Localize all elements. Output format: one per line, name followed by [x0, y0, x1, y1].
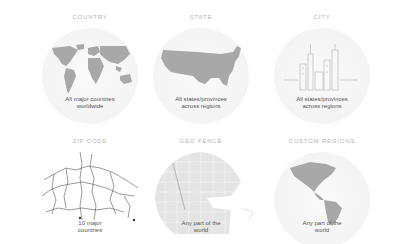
tile-caption: Any part of the world: [141, 220, 261, 234]
geo-targeting-grid: COUNTRY All majo: [0, 0, 402, 244]
tile-city[interactable]: CITY All states/provinces across regi: [262, 14, 382, 124]
tile-caption: 10 major countries: [30, 220, 150, 234]
tile-caption: Any part of the world: [262, 220, 382, 234]
tile-caption: All states/provinces across regions: [141, 96, 261, 110]
tile-caption: All major countries worldwide: [30, 96, 150, 110]
tile-country[interactable]: COUNTRY All majo: [30, 14, 150, 124]
tile-caption: All states/provinces across regions: [262, 96, 382, 110]
tile-zip-code[interactable]: ZIP CODE 10 major countries: [30, 138, 150, 244]
tile-state[interactable]: STATE All states/provinces across region…: [141, 14, 261, 124]
tile-custom-regions[interactable]: CUSTOM REGIONS Any part of the world: [262, 138, 382, 244]
tile-geo-fence[interactable]: GEO FENCE: [141, 138, 261, 244]
